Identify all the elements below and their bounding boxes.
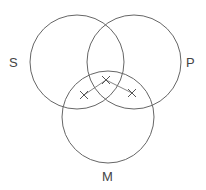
label-s: S xyxy=(9,56,18,69)
x-marks xyxy=(80,76,136,99)
x-mark-icon xyxy=(102,76,110,84)
x-mark-icon xyxy=(80,91,88,99)
venn-diagram xyxy=(0,0,206,190)
label-p: P xyxy=(186,56,195,69)
label-m: M xyxy=(102,170,113,183)
circle-s xyxy=(30,15,124,109)
connector-line xyxy=(84,80,106,95)
circle-m xyxy=(62,71,154,163)
connector-line xyxy=(106,80,132,93)
x-mark-icon xyxy=(128,89,136,97)
